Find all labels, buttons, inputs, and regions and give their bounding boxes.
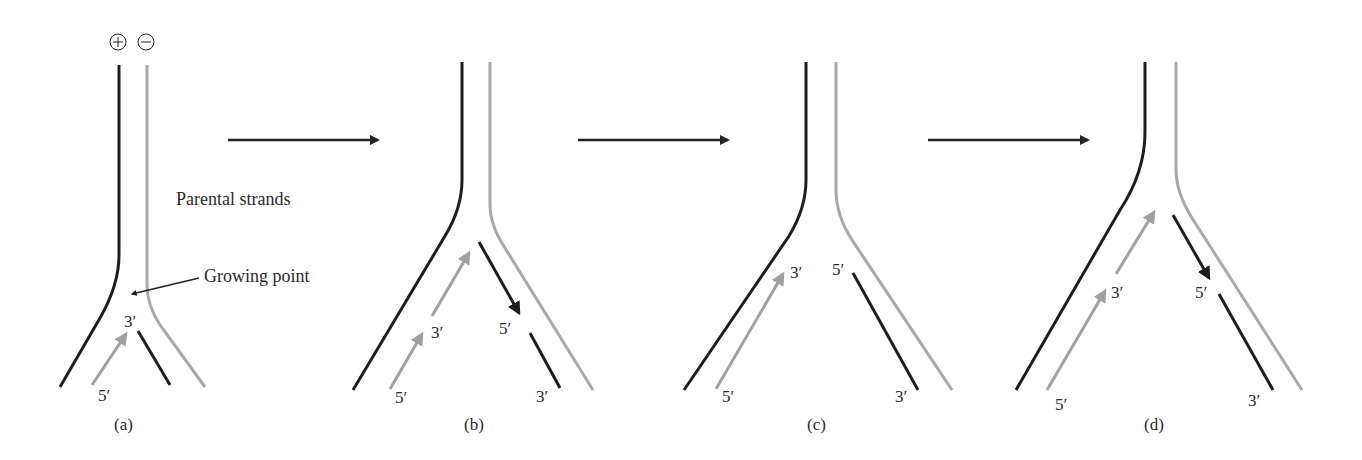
replication-fork-diagram: [0, 0, 1362, 460]
panel-c-black-5prime: 5′: [832, 261, 844, 278]
parental-minus-strand: [1176, 62, 1302, 390]
panel-d-grey-5prime: 5′: [1055, 396, 1067, 413]
parental-minus-strand: [147, 65, 205, 387]
growing-point-label: Growing point: [204, 267, 310, 285]
panel-b-black-5prime: 5′: [499, 320, 511, 337]
new-black-strand: [530, 333, 560, 388]
panel-a-grey-3prime: 3′: [124, 313, 136, 330]
new-black-strand: [138, 331, 170, 385]
parental-plus-strand: [60, 65, 119, 387]
parental-minus-strand: [490, 62, 593, 390]
new-grey-strand-arrow: [716, 274, 783, 389]
growing-point-arrow: [132, 278, 199, 294]
parental-minus-strand: [836, 62, 952, 390]
panel-c-caption: (c): [807, 416, 826, 433]
parental-strands-label: Parental strands: [176, 190, 290, 208]
parental-plus-strand: [353, 62, 462, 390]
parental-plus-strand: [1016, 62, 1145, 390]
panel-c-grey-3prime: 3′: [790, 264, 802, 281]
panel-d-grey-3prime: 3′: [1111, 284, 1123, 301]
panel-b-caption: (b): [464, 416, 484, 433]
panel-a-caption: (a): [114, 416, 133, 433]
panel-b: [353, 62, 593, 390]
panel-b-grey-5prime: 5′: [395, 389, 407, 406]
panel-a: [60, 65, 205, 387]
panel-c-grey-5prime: 5′: [722, 388, 734, 405]
new-grey-strand-arrow: [92, 334, 126, 385]
panel-a-grey-5prime: 5′: [98, 387, 110, 404]
new-black-strand: [1219, 294, 1273, 390]
new-black-strand-arrow: [1173, 215, 1209, 278]
new-black-strand-arrow: [479, 242, 519, 313]
panel-d-black-5prime: 5′: [1195, 284, 1207, 301]
panel-d-black-3prime: 3′: [1248, 392, 1260, 409]
panel-c-black-3prime: 3′: [895, 388, 907, 405]
panel-b-grey-3prime: 3′: [431, 324, 443, 341]
new-grey-okazaki-1: [1047, 291, 1105, 390]
panel-c: [684, 62, 952, 390]
panel-d: [1016, 62, 1302, 390]
new-grey-okazaki-2: [432, 253, 469, 316]
plus-strand-sign: [110, 34, 126, 50]
minus-strand-sign: [138, 34, 154, 50]
panel-b-black-3prime: 3′: [536, 388, 548, 405]
panel-d-caption: (d): [1144, 416, 1164, 433]
new-grey-okazaki-1: [390, 334, 422, 389]
new-grey-okazaki-2: [1116, 212, 1154, 274]
